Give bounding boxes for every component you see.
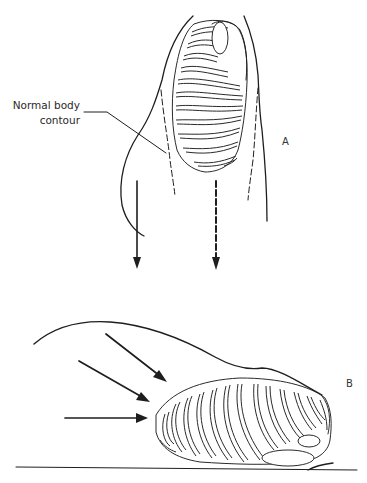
panel-a-drawing: [84, 16, 267, 270]
callout-line-1: Normal body: [10, 98, 80, 113]
organ-oval-large: [262, 450, 314, 466]
panel-label-b: B: [346, 378, 353, 389]
figure-canvas: [0, 0, 367, 483]
panel-b-drawing: [16, 322, 357, 470]
arrow-b2-head: [136, 392, 150, 402]
organ-oval-small: [298, 435, 320, 447]
normal-body-contour-callout: Normal body contour: [10, 98, 80, 128]
arrow-b3-head: [136, 413, 148, 423]
arrow-down-solid-head: [133, 257, 141, 269]
normal-contour-dashed-right: [248, 88, 258, 200]
callout-line-2: contour: [10, 113, 80, 128]
heart-oval: [212, 22, 228, 54]
callout-leader-line: [84, 112, 166, 153]
panel-label-a: A: [282, 136, 289, 147]
arrow-down-dashed-head: [212, 257, 220, 270]
